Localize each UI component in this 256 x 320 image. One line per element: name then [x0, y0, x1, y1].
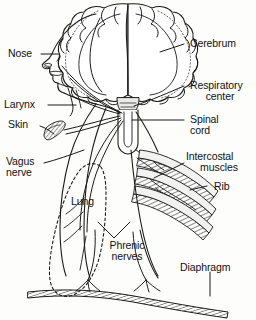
leader-vagus: [44, 150, 84, 163]
respiratory-center-structure: [117, 98, 139, 110]
label-vagus-nerve-line2: nerve: [6, 167, 32, 178]
label-lung: Lung: [71, 196, 94, 207]
label-intercostal-muscles-line2: muscles: [186, 162, 252, 173]
diaphragm-structure: [28, 290, 228, 318]
label-diaphragm: Diaphragm: [180, 262, 230, 273]
label-phrenic-nerves-line2: nerves: [99, 251, 155, 262]
label-skin: Skin: [8, 119, 28, 130]
label-nose: Nose: [8, 48, 32, 59]
skin-patch: [44, 121, 65, 140]
label-respiratory-center-line2: center: [190, 91, 250, 102]
label-spinal-cord-line2: cord: [190, 125, 210, 136]
label-rib: Rib: [214, 181, 229, 192]
vagus-branches: [64, 198, 86, 270]
spinal-cord-structure: [118, 110, 138, 154]
label-cerebrum: Cerebrum: [190, 38, 236, 49]
label-larynx: Larynx: [4, 99, 35, 110]
anatomy-figure: Nose Larynx Skin Vagus nerve Lung Phreni…: [0, 0, 256, 320]
